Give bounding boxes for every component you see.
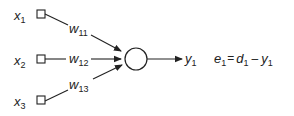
edge-line	[45, 14, 68, 25]
input-node-x1: x1	[13, 8, 45, 25]
output-label-y1: y1	[184, 51, 197, 68]
weight-label-w11: w11	[69, 21, 88, 38]
edge-arrow-icon	[93, 65, 122, 79]
edge-line	[45, 90, 68, 101]
neuron-diagram: x1 x2 x3 w11 w12 w13 y1 e1=d1–y1	[0, 0, 294, 116]
neuron-node-icon	[125, 48, 147, 70]
input-box-icon	[37, 96, 45, 104]
input-label-x1: x1	[13, 8, 26, 25]
input-node-x3: x3	[13, 94, 45, 111]
edge-arrow-icon	[91, 35, 121, 51]
input-label-x3: x3	[13, 94, 26, 111]
input-label-x2: x2	[13, 53, 26, 70]
input-box-icon	[37, 55, 45, 63]
weight-label-w12: w12	[69, 51, 88, 68]
error-equation: e1=d1–y1	[214, 51, 273, 68]
input-box-icon	[37, 10, 45, 18]
input-node-x2: x2	[13, 53, 45, 70]
weight-label-w13: w13	[69, 77, 88, 94]
